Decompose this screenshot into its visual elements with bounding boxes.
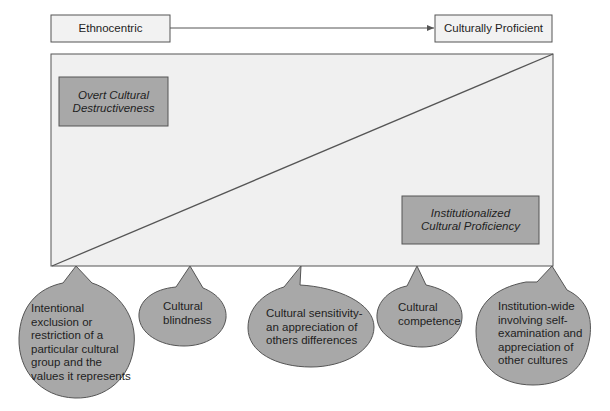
bubble-4-line: Cultural xyxy=(398,301,461,315)
bubble-2-label: Cultural blindness xyxy=(163,300,212,327)
ethnocentric-label: Ethnocentric xyxy=(51,15,170,42)
bubble-1-line: particular cultural xyxy=(31,343,131,357)
overt-line-2: Destructiveness xyxy=(73,102,155,115)
bubble-3-line: others differences xyxy=(266,334,363,348)
bubble-1-line: restriction of a xyxy=(31,329,131,343)
bubble-5-line: examination and xyxy=(498,327,582,341)
bubble-3-line: Cultural sensitivity- xyxy=(266,307,363,321)
bubble-1-line: Intentional xyxy=(31,302,131,316)
institutionalized-line-1: Institutionalized xyxy=(431,207,510,220)
bubble-2-line: blindness xyxy=(163,314,212,328)
culturally-proficient-label: Culturally Proficient xyxy=(435,15,552,42)
bubble-4-line: competence xyxy=(398,315,461,329)
bubble-5-label: Institution-wide involving self- examina… xyxy=(498,300,582,368)
bubble-1-label: Intentional exclusion or restriction of … xyxy=(31,302,131,383)
bubble-3-line: an appreciation of xyxy=(266,321,363,335)
bubble-5-line: appreciation of xyxy=(498,341,582,355)
bubble-5-line: involving self- xyxy=(498,314,582,328)
bubble-1-line: values it represents xyxy=(31,370,131,384)
bubble-4-label: Cultural competence xyxy=(398,301,461,328)
institutionalized-line-2: Cultural Proficiency xyxy=(421,220,520,233)
overt-line-1: Overt Cultural xyxy=(78,89,149,102)
bubble-2-line: Cultural xyxy=(163,300,212,314)
bubble-5-line: other cultures xyxy=(498,354,582,368)
bubble-5-line: Institution-wide xyxy=(498,300,582,314)
overt-destructiveness-label: Overt Cultural Destructiveness xyxy=(59,77,168,126)
bubble-1-line: exclusion or xyxy=(31,316,131,330)
institutionalized-proficiency-label: Institutionalized Cultural Proficiency xyxy=(402,196,539,244)
bubble-1-line: group and the xyxy=(31,356,131,370)
bubble-3-label: Cultural sensitivity- an appreciation of… xyxy=(266,307,363,348)
